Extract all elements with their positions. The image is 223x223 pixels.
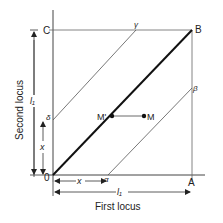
label-M: M — [147, 112, 155, 122]
y-axis-title: Second locus — [14, 80, 25, 140]
line-delta-gamma — [53, 30, 136, 120]
label-C: C — [43, 25, 50, 36]
label-O: 0 — [44, 172, 50, 183]
label-l1-horizontal: l₁ — [117, 187, 122, 197]
label-delta: δ — [46, 113, 51, 122]
label-M-prime: M' — [97, 112, 106, 122]
x-axis-title: First locus — [95, 201, 141, 212]
label-x-vertical: x — [39, 142, 45, 152]
label-gamma: γ — [134, 20, 139, 29]
label-beta: β — [192, 84, 198, 93]
label-l1-vertical: l₁ — [30, 96, 35, 106]
diagonal-OB — [53, 30, 192, 175]
point-M — [142, 114, 146, 118]
point-M-prime — [110, 114, 114, 118]
label-A: A — [188, 177, 195, 188]
locus-diagram: C B A 0 M' M γ β α δ l₁ x x l₁ Second lo… — [0, 0, 223, 223]
label-x-horizontal: x — [76, 176, 82, 186]
label-B: B — [195, 24, 202, 35]
label-alpha: α — [104, 175, 109, 184]
line-alpha-beta — [108, 88, 192, 175]
